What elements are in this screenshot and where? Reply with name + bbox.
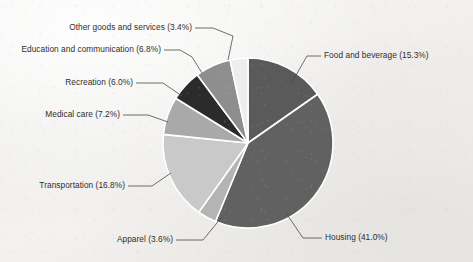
slice-label-transportation: Transportation (16.8%) [39,180,125,190]
leader-line-education-and-communication [164,50,202,73]
leader-line-other-goods-and-services [195,28,233,60]
leader-line-transportation [128,173,171,186]
leader-line-recreation [136,83,182,96]
pie-slices-group [163,58,333,228]
pie-chart-canvas [0,0,473,262]
pie-chart-figure: Food and beverage (15.3%) Housing (41.0%… [0,0,473,262]
slice-label-education-and-communication: Education and communication (6.8%) [21,44,161,54]
leader-line-medical-care [123,115,168,122]
slice-label-apparel: Apparel (3.6%) [117,234,173,244]
slice-label-recreation: Recreation (6.0%) [65,77,133,87]
slice-label-food-and-beverage: Food and beverage (15.3%) [324,50,429,60]
slice-label-other-goods-and-services: Other goods and services (3.4%) [69,22,192,32]
slice-label-housing: Housing (41.0%) [325,232,388,242]
slice-label-medical-care: Medical care (7.2%) [45,109,120,119]
